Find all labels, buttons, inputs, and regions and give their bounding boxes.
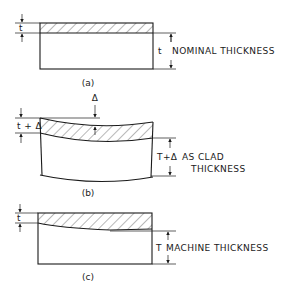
caption-b: (b) — [82, 188, 95, 198]
caption-a: (a) — [82, 78, 95, 88]
bottom-surface-b — [40, 175, 153, 182]
caption-c: (c) — [82, 272, 94, 282]
base-dimension-label-c: T — [155, 243, 162, 253]
description-a: NOMINAL THICKNESS — [172, 46, 275, 56]
clad-plate-thickness-diagram: t t NOMINAL THICKNESS (a) Δ t + Δ T+ — [0, 0, 282, 297]
clad-dimension-label-a: t — [19, 23, 23, 33]
description-b-line2: THICKNESS — [190, 164, 246, 174]
deflection-label: Δ — [92, 93, 99, 103]
base-dimension-label-b: T+Δ — [156, 152, 178, 162]
clad-dimension-label-b: t + Δ — [17, 121, 42, 131]
panel-a: t t NOMINAL THICKNESS (a) — [15, 14, 275, 88]
clad-layer-a — [40, 23, 153, 33]
description-c: MACHINE THICKNESS — [166, 243, 269, 253]
panel-b: Δ t + Δ T+Δ AS CLAD THICKNESS (b) — [15, 93, 246, 198]
base-dimension-label-a: t — [158, 46, 162, 56]
clad-layer-c — [38, 213, 152, 230]
clad-dimension-label-c: t — [17, 213, 21, 223]
panel-c: t T MACHINE THICKNESS (c) — [15, 204, 269, 282]
description-b-line1: AS CLAD — [182, 152, 224, 162]
